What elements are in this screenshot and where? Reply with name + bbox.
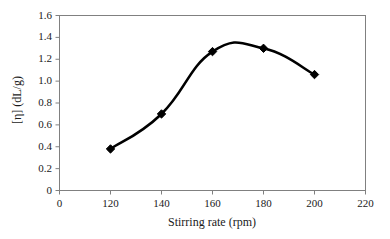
axes-frame [60, 16, 366, 191]
y-tick-label: 1.2 [20, 53, 52, 64]
x-tick-label: 200 [295, 198, 335, 209]
y-tick-label: 1.4 [20, 31, 52, 42]
x-tick-label: 220 [346, 198, 386, 209]
data-series-markers [106, 44, 318, 153]
y-tick-label: 0.2 [20, 163, 52, 174]
x-tick-label: 120 [91, 198, 131, 209]
data-series-line [111, 42, 315, 149]
y-tick-label: 0 [20, 185, 52, 196]
x-axis-ticks [60, 191, 366, 195]
y-tick-label: 0.6 [20, 119, 52, 130]
y-tick-label: 1.6 [20, 10, 52, 21]
x-axis-title: Stirring rate (rpm) [59, 216, 365, 228]
data-point-marker [259, 44, 267, 52]
x-tick-label: 180 [244, 198, 284, 209]
y-tick-label: 0.8 [20, 97, 52, 108]
y-axis-title: [η] (dL/g) [11, 45, 23, 155]
y-tick-label: 0.4 [20, 141, 52, 152]
chart-figure: 00.20.40.60.81.01.21.41.6 01201401601802… [0, 0, 390, 239]
y-tick-label: 1.0 [20, 75, 52, 86]
y-axis-ticks [56, 16, 60, 191]
x-tick-label: 160 [193, 198, 233, 209]
x-tick-label: 140 [142, 198, 182, 209]
x-tick-label: 0 [40, 198, 80, 209]
